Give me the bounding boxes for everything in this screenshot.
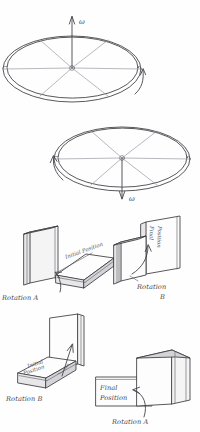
book-a1-upright-cover (30, 226, 58, 283)
disk-bottom-spoke-1 (55, 158, 122, 159)
book-a2-upright-top (137, 350, 190, 358)
book-b2-group (18, 314, 84, 388)
disk-bottom-spoke-3 (91, 131, 122, 158)
disk-bottom-spoke-5 (91, 158, 122, 185)
disk-top-group (3, 16, 146, 102)
rotation-figure-svg (0, 0, 200, 432)
disk-top-spin-arc (135, 70, 143, 94)
disk-bottom-spoke-4 (122, 131, 157, 158)
disk-top-spoke-4 (72, 40, 108, 68)
disk-bottom-spoke-6 (122, 158, 157, 185)
disk-top-spoke-6 (72, 68, 108, 96)
book-b1-group (114, 216, 180, 284)
figure-sheet: ω ω Initial Position Rotation A Final Po… (0, 0, 200, 432)
book-a1-group (24, 226, 114, 292)
book-a2-group (96, 350, 190, 417)
disk-bottom-spoke-2 (122, 158, 189, 159)
disk-bottom-group (50, 127, 190, 199)
disk-top-spoke-1 (4, 68, 72, 69)
disk-top-spoke-3 (40, 40, 72, 68)
disk-top-spoke-2 (72, 68, 140, 69)
book-a2-upright-front (137, 350, 172, 406)
book-b1-flat-spine (114, 242, 121, 284)
book-b1-upright-cover (146, 216, 180, 274)
disk-top-spoke-5 (40, 68, 72, 96)
